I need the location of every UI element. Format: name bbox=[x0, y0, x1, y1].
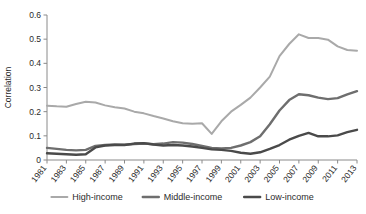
x-axis-tick-label: 1995 bbox=[165, 163, 185, 184]
x-axis-tick-label: 2011 bbox=[320, 163, 339, 184]
data-series-group bbox=[47, 34, 357, 154]
x-axis-tick-label: 1983 bbox=[48, 163, 68, 184]
y-axis: 00.10.20.30.40.50.6 bbox=[29, 10, 47, 165]
line-chart: 00.10.20.30.40.50.6 19811983198519871989… bbox=[0, 0, 366, 214]
chart-legend: High-incomeMiddle-incomeLow-income bbox=[51, 192, 313, 202]
series-line-middle-income bbox=[47, 91, 357, 150]
legend-item-high-income: High-income bbox=[51, 192, 123, 202]
chart-container: 00.10.20.30.40.50.6 19811983198519871989… bbox=[0, 0, 366, 214]
x-axis-tick-label: 1999 bbox=[203, 163, 223, 184]
legend-label: High-income bbox=[72, 192, 123, 202]
series-line-low-income bbox=[47, 130, 357, 155]
y-axis-title: Correlation bbox=[3, 66, 13, 108]
y-axis-tick-label: 0.6 bbox=[29, 10, 41, 20]
x-axis-tick-label: 2003 bbox=[242, 163, 262, 184]
y-axis-tick-label: 0.4 bbox=[29, 58, 41, 68]
x-axis-tick-label: 1987 bbox=[87, 163, 107, 184]
x-axis-tick-label: 1989 bbox=[107, 163, 127, 184]
x-axis: 1981198319851987198919911993199519971999… bbox=[29, 160, 359, 184]
legend-label: Low-income bbox=[265, 192, 314, 202]
x-axis-tick-label: 1997 bbox=[184, 163, 204, 184]
x-axis-tick-label: 2013 bbox=[339, 163, 359, 184]
legend-item-middle-income: Middle-income bbox=[143, 192, 223, 202]
legend-item-low-income: Low-income bbox=[244, 192, 314, 202]
x-axis-tick-label: 2005 bbox=[262, 163, 282, 184]
x-axis-tick-label: 2009 bbox=[300, 163, 320, 184]
series-line-high-income bbox=[47, 34, 357, 134]
x-axis-tick-label: 1993 bbox=[145, 163, 165, 184]
x-axis-tick-label: 1985 bbox=[68, 163, 88, 184]
x-axis-tick-label: 2001 bbox=[223, 163, 243, 184]
x-axis-tick-label: 1981 bbox=[29, 163, 49, 184]
x-axis-tick-label: 1991 bbox=[126, 163, 146, 184]
y-axis-tick-label: 0.1 bbox=[29, 131, 41, 141]
legend-label: Middle-income bbox=[164, 192, 223, 202]
x-axis-tick-label: 2007 bbox=[281, 163, 301, 184]
y-axis-tick-label: 0.2 bbox=[29, 107, 41, 117]
y-axis-tick-label: 0.5 bbox=[29, 34, 41, 44]
y-axis-tick-label: 0.3 bbox=[29, 83, 41, 93]
